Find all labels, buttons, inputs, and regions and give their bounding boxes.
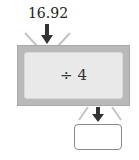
output-ray-right (112, 107, 121, 120)
operation-label: ÷ 4 (24, 66, 123, 84)
answer-box[interactable] (74, 124, 122, 150)
function-machine: ÷ 4 (17, 45, 130, 106)
input-arrow-icon (41, 24, 53, 44)
output-ray-left (79, 107, 88, 120)
output-arrow-icon (92, 107, 104, 122)
machine-panel: ÷ 4 (24, 52, 123, 99)
